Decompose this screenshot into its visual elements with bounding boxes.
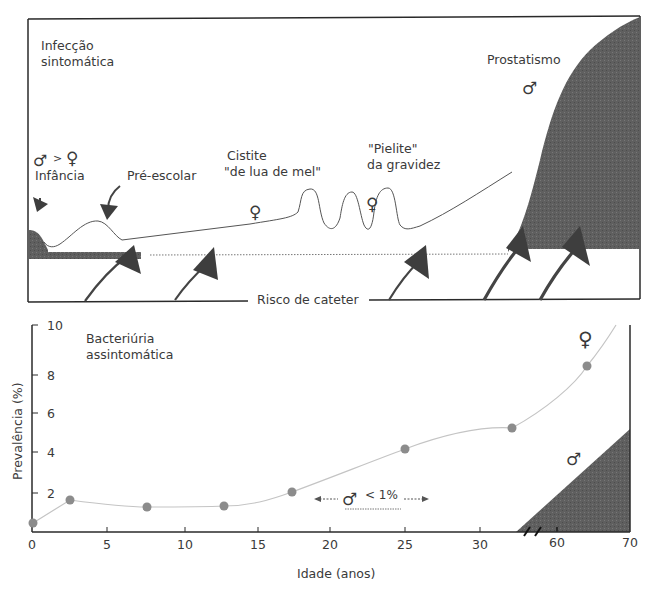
label-infancia: Infância [35,168,85,183]
y-ticks [32,325,38,493]
bottom-title-line2: assintomática [86,347,173,362]
figure-canvas: Infecção sintomática ♂ > ♀ Infância Pré-… [0,0,649,591]
top-frame-bottom-left [28,301,248,302]
x-tick-0: 0 [28,537,36,552]
top-panel: Infecção sintomática ♂ > ♀ Infância Pré-… [28,16,640,307]
x-tick-labels: 0 5 10 15 20 25 30 60 70 [28,535,638,552]
male-under-1pct-annotation: ♂ < 1% [314,488,429,509]
label-pielite-line1: "Pielite" [368,141,417,156]
y-tick-6: 6 [47,406,55,421]
preschool-arrow [100,186,120,220]
x-tick-15: 15 [250,537,266,552]
x-tick-10: 10 [177,537,193,552]
catheter-arrow-5 [540,246,578,300]
x-tick-5: 5 [103,537,111,552]
data-point [143,503,152,512]
catheter-arrowheads [115,226,590,280]
top-frame-top [28,16,640,19]
male-prevalence-area [516,429,630,532]
y-tick-labels: 10 8 6 4 2 [47,318,63,501]
sex-ratio-greater: > [53,152,62,165]
infancy-arrow [33,197,48,212]
top-title-line1: Infecção [41,38,94,53]
y-tick-2: 2 [47,486,55,501]
label-pre-escolar: Pré-escolar [127,168,197,183]
male-symbol-icon: ♂ [342,489,357,509]
male-under-1pct-label: < 1% [365,488,398,502]
data-point [29,519,38,528]
female-data-points [29,362,592,528]
male-symbol-icon: ♂ [566,449,581,469]
dotted-baseline [150,254,508,255]
y-tick-4: 4 [47,445,55,460]
data-point [288,488,297,497]
top-title-line2: sintomática [41,54,114,69]
label-pielite-line2: da gravidez [367,157,441,172]
bottom-title-line1: Bacteriúria [86,331,155,346]
data-point [220,502,229,511]
arrow-left-icon [314,496,321,502]
x-tick-70: 70 [622,535,638,550]
data-point [583,362,592,371]
data-point [401,445,410,454]
label-risco-cateter: Risco de cateter [257,292,359,307]
label-prostatismo: Prostatismo [487,52,561,67]
female-symbol-icon: ♀ [366,194,378,214]
x-tick-25: 25 [397,537,413,552]
x-tick-60: 60 [549,535,565,550]
female-symbol-icon: ♀ [66,148,78,168]
female-symbol-icon: ♀ [578,327,593,351]
data-point [66,496,75,505]
male-symbol-icon: ♂ [522,78,537,98]
label-cistite-line2: "de lua de mel" [224,164,321,179]
y-axis-label: Prevalência (%) [10,382,25,480]
top-frame-bottom-right [369,299,640,300]
y-tick-8: 8 [47,368,55,383]
arrowhead-1 [115,245,141,274]
x-axis-label: Idade (anos) [297,566,375,581]
x-tick-30: 30 [472,537,488,552]
preschool-arrowhead-icon [100,204,118,220]
bottom-chart: 10 8 6 4 2 0 5 10 15 20 25 30 [10,318,638,581]
data-point [508,424,517,433]
label-cistite-line1: Cistite [227,148,267,163]
x-tick-20: 20 [322,537,338,552]
y-tick-10: 10 [47,318,63,333]
arrow-right-icon [422,496,429,502]
female-symbol-icon: ♀ [249,202,261,222]
